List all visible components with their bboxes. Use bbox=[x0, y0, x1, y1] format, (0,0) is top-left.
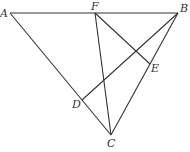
point-label-B: B bbox=[179, 2, 188, 15]
labels: AFBEDC bbox=[0, 0, 188, 150]
point-label-D: D bbox=[71, 98, 81, 111]
segment-FC bbox=[95, 13, 111, 135]
geometry-diagram: AFBEDC bbox=[0, 0, 190, 152]
diagram-svg: AFBEDC bbox=[0, 0, 190, 152]
point-label-F: F bbox=[90, 0, 99, 13]
segment-FE bbox=[95, 13, 150, 64]
point-label-A: A bbox=[0, 7, 8, 20]
segment-AC bbox=[10, 13, 111, 135]
segment-BC bbox=[111, 13, 178, 135]
point-label-C: C bbox=[107, 137, 116, 150]
point-label-E: E bbox=[150, 62, 159, 75]
